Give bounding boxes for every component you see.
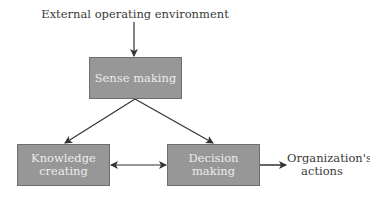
node-label: Decision making	[168, 152, 259, 178]
output-label: Organization's actions	[287, 152, 357, 178]
output-label-line2: actions	[287, 165, 357, 178]
node-knowledge-creating: Knowledge creating	[17, 144, 110, 186]
node-sense-making: Sense making	[89, 57, 182, 99]
node-decision-making: Decision making	[167, 144, 260, 186]
input-label: External operating environment	[40, 8, 230, 21]
arrow-sense-to-decision	[135, 99, 213, 143]
arrow-sense-to-knowledge	[65, 99, 135, 143]
node-label: Sense making	[95, 72, 177, 85]
node-label-line2: creating	[39, 165, 88, 178]
